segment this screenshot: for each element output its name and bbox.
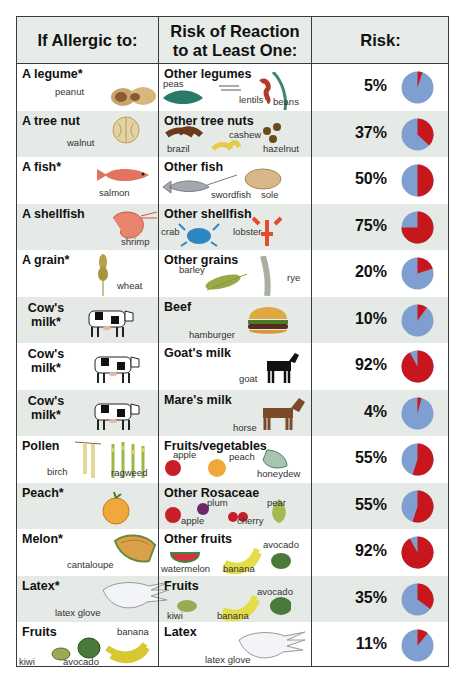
allergen-cell: A fish*salmon [17, 157, 158, 204]
related-cell: Fruitsavocadokiwibanana [159, 576, 311, 623]
related-item-label: cashew [229, 129, 261, 140]
risk-pie-chart-icon [401, 211, 434, 244]
allergen-label: Cow's milk* [17, 301, 75, 329]
wheat-illustration-icon [93, 252, 113, 300]
allergen-item-label: kiwi [19, 656, 35, 667]
related-item-label: lobster [233, 226, 262, 237]
allergen-cell: Pollenbirchragweed [17, 436, 158, 483]
allergen-cell: Cow's milk* [17, 390, 158, 437]
related-label: Goat's milk [164, 346, 231, 360]
risk-pie-chart-icon [401, 629, 434, 662]
related-item-label: watermelon [161, 563, 210, 574]
risk-percent: 10% [337, 310, 387, 328]
risk-cell: 55% [312, 436, 449, 483]
related-item-label: kiwi [167, 610, 183, 621]
related-item-label: avocado [263, 539, 299, 550]
header-risk-of-reaction: Risk of Reaction to at Least One: [159, 17, 311, 64]
risk-cell: 75% [312, 204, 449, 251]
risk-cell: 35% [312, 576, 449, 623]
related-cell: Other grainsbarleyrye [159, 250, 311, 297]
table-row: Cow's milk*Beefhamburger10% [17, 297, 448, 344]
risk-pie-chart-icon [401, 164, 434, 197]
related-cell: Other shellfishcrablobster [159, 204, 311, 251]
risk-cell: 5% [312, 64, 449, 111]
risk-percent: 20% [337, 263, 387, 281]
risk-percent: 92% [337, 542, 387, 560]
risk-pie-chart-icon [401, 536, 434, 569]
table-row: A fish*salmonOther fishswordfishsole50% [17, 157, 448, 204]
related-label: Latex [164, 625, 197, 639]
related-cell: Other fishswordfishsole [159, 157, 311, 204]
related-item-label: hazelnut [263, 143, 299, 154]
allergen-cell: A grain*wheat [17, 250, 158, 297]
allergen-cell: Cow's milk* [17, 297, 158, 344]
related-item-label: avocado [257, 586, 293, 597]
header-col2-line1: Risk of Reaction [170, 22, 299, 41]
related-item-label: honeydew [257, 468, 300, 479]
risk-cell: 37% [312, 111, 449, 158]
cow-illustration-icon [89, 349, 143, 389]
table-row: Cow's milk*Goat's milkgoat92% [17, 343, 448, 390]
peach-illustration-icon [101, 491, 131, 529]
allergen-cell: Peach* [17, 483, 158, 530]
related-item-label: apple [173, 449, 196, 460]
risk-cell: 4% [312, 390, 449, 437]
related-item-label: plum [207, 497, 228, 508]
allergen-cell: Fruitsbananakiwiavocado [17, 622, 158, 669]
table-row: PollenbirchragweedFruits/vegetablesapple… [17, 436, 448, 483]
related-item-label: beans [273, 96, 299, 107]
related-label: Beef [164, 300, 191, 314]
peanut-illustration-icon [109, 84, 157, 112]
allergen-cell: A legume*peanut [17, 64, 158, 111]
risk-pie-chart-icon [401, 490, 434, 523]
related-item-label: hamburger [189, 329, 235, 340]
header-col3-text: Risk: [360, 31, 400, 50]
related-cell: Other Rosaceaeplumpearapplecherry [159, 483, 311, 530]
allergen-label: A tree nut [22, 114, 80, 128]
allergen-item-label: peanut [55, 86, 84, 97]
risk-pie-chart-icon [401, 583, 434, 616]
table-header: If Allergic to: Risk of Reaction to at L… [17, 17, 448, 64]
goat-illustration-icon [261, 349, 301, 389]
table-row: A shellfishshrimpOther shellfishcrablobs… [17, 204, 448, 251]
allergen-label: A fish* [22, 160, 61, 174]
risk-cell: 92% [312, 529, 449, 576]
related-item-label: swordfish [211, 189, 251, 200]
table-row: A legume*peanutOther legumespeaslentilsb… [17, 64, 448, 111]
risk-percent: 4% [337, 403, 387, 421]
risk-percent: 92% [337, 356, 387, 374]
related-item-label: crab [161, 226, 179, 237]
allergen-label: A legume* [22, 67, 83, 81]
allergen-item-label: birch [47, 466, 68, 477]
grains2-illustration-icon [163, 256, 291, 300]
header-risk: Risk: [312, 17, 449, 64]
risk-percent: 11% [337, 635, 387, 653]
risk-cell: 11% [312, 622, 449, 669]
table-row: A grain*wheatOther grainsbarleyrye20% [17, 250, 448, 297]
related-cell: Other tree nutsbrazilcashewhazelnut [159, 111, 311, 158]
table-row: A tree nutwalnutOther tree nutsbrazilcas… [17, 111, 448, 158]
risk-cell: 50% [312, 157, 449, 204]
related-item-label: rye [287, 272, 300, 283]
related-item-label: lentils [239, 94, 263, 105]
risk-cell: 92% [312, 343, 449, 390]
allergen-item-label: avocado [63, 656, 99, 667]
allergen-cell: A tree nutwalnut [17, 111, 158, 158]
related-item-label: banana [217, 610, 249, 621]
column-divider-2 [311, 17, 313, 666]
cow-illustration-icon [89, 396, 143, 436]
risk-percent: 5% [337, 77, 387, 95]
cross-reactivity-table: If Allergic to: Risk of Reaction to at L… [16, 16, 449, 667]
allergen-label: Cow's milk* [17, 394, 75, 422]
allergen-item-label: latex glove [55, 607, 100, 618]
risk-pie-chart-icon [401, 257, 434, 290]
related-item-label: banana [223, 563, 255, 574]
related-item-label: latex glove [205, 654, 250, 665]
allergen-cell: Latex*latex glove [17, 576, 158, 623]
allergen-cell: Cow's milk* [17, 343, 158, 390]
allergen-item-label: wheat [117, 280, 142, 291]
related-item-label: pear [267, 497, 286, 508]
risk-pie-chart-icon [401, 397, 434, 430]
risk-pie-chart-icon [401, 71, 434, 104]
allergen-item-label: salmon [99, 187, 130, 198]
